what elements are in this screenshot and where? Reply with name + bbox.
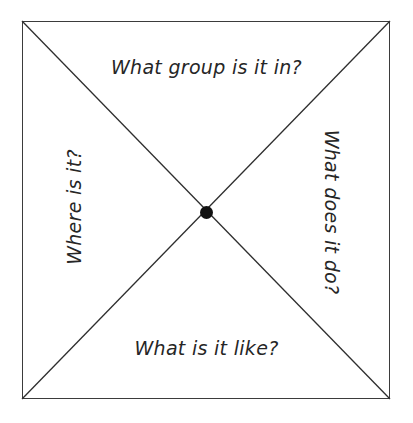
quadrant-label-right: What does it do? <box>321 130 343 295</box>
center-point-dot <box>200 206 213 219</box>
quadrant-label-bottom: What is it like? <box>0 337 413 359</box>
quadrant-label-top: What group is it in? <box>0 56 413 78</box>
concept-map-canvas: What group is it in? What is it like? Wh… <box>0 0 413 423</box>
quadrant-label-left: Where is it? <box>63 149 85 265</box>
